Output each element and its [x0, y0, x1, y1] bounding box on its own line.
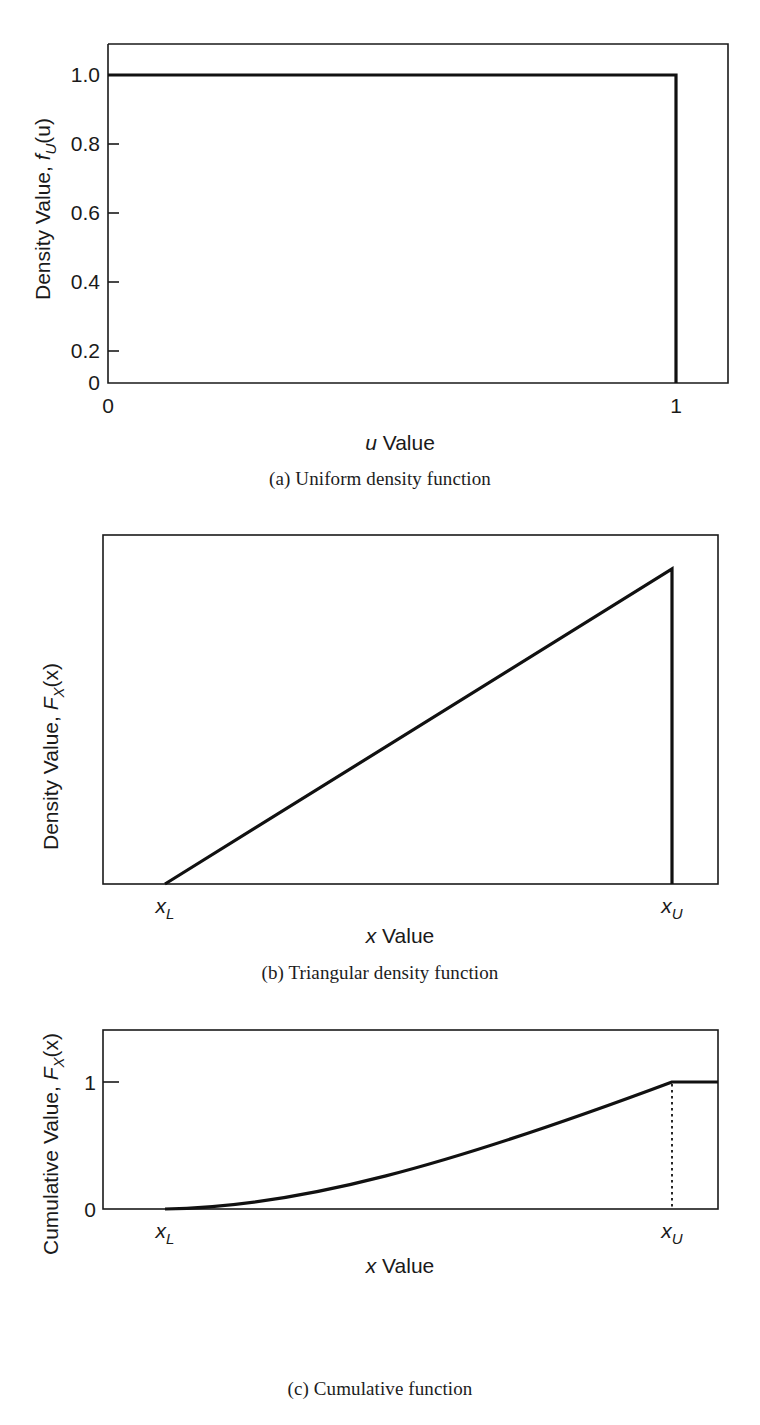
chart-panel-c: Cumulative Value, FX(x) 1 0 xL xU x Va	[0, 985, 760, 1340]
triangular-density-chart: Density Value, FX(x) xL xU x Value	[0, 505, 760, 945]
cumulative-curve	[165, 1082, 718, 1209]
plot-frame-c	[103, 1030, 718, 1209]
y-axis-title-c: Cumulative Value, FX(x)	[39, 1033, 67, 1255]
chart-panel-a: Density Value, fU(u) 1.0 0.8 0.6 0.4 0.2…	[0, 0, 760, 450]
x-axis-title-b-text: Value	[376, 924, 434, 945]
y-tick-label-a-5: 0.2	[71, 339, 100, 362]
x-tick-label-a-0: 0	[102, 394, 114, 417]
caption-a: (a) Uniform density function	[0, 468, 760, 490]
y-axis-title-b: Density Value, FX(x)	[39, 663, 67, 850]
x-tick-label-b-lower-sub: L	[166, 905, 174, 922]
uniform-density-chart: Density Value, fU(u) 1.0 0.8 0.6 0.4 0.2…	[0, 0, 760, 455]
y-axis-title-a-sub: U	[42, 143, 59, 154]
y-axis-title-a-arg: (u)	[31, 118, 54, 144]
y-tick-label-a-4: 0.4	[71, 270, 101, 293]
y-axis-title-b-arg: (x)	[39, 663, 62, 688]
plot-frame-b	[103, 535, 718, 884]
y-tick-label-a-1: 1.0	[71, 63, 100, 86]
x-tick-label-c-lower: xL	[155, 1219, 175, 1247]
y-tick-label-c-1: 1	[84, 1071, 96, 1094]
y-axis-title-b-prefix: Density Value,	[39, 710, 62, 850]
cumulative-function-chart: Cumulative Value, FX(x) 1 0 xL xU x Va	[0, 985, 760, 1340]
y-axis-title-a: Density Value, fU(u)	[31, 118, 59, 300]
x-tick-label-c-upper-sub: U	[672, 1230, 683, 1247]
y-tick-label-a-3: 0.6	[71, 201, 100, 224]
y-axis-title-c-arg: (x)	[39, 1033, 62, 1058]
chart-panel-b: Density Value, FX(x) xL xU x Value	[0, 505, 760, 945]
x-tick-label-b-lower: xL	[155, 894, 175, 922]
x-axis-title-c-text: Value	[376, 1254, 434, 1277]
uniform-density-curve	[108, 75, 676, 383]
x-tick-label-b-upper-sub: U	[672, 905, 683, 922]
caption-c: (c) Cumulative function	[0, 1378, 760, 1400]
y-axis-title-a-prefix: Density Value,	[31, 160, 54, 300]
x-tick-label-b-upper: xU	[660, 894, 683, 922]
x-axis-title-a: u Value	[365, 431, 435, 454]
x-axis-title-c: x Value	[365, 1254, 435, 1277]
y-tick-label-a-2: 0.8	[71, 132, 100, 155]
caption-b: (b) Triangular density function	[0, 962, 760, 984]
y-tick-label-c-0: 0	[84, 1198, 96, 1221]
y-tick-label-a-6: 0	[88, 371, 100, 394]
x-tick-label-c-lower-sub: L	[166, 1230, 174, 1247]
x-axis-title-a-var: u	[365, 431, 377, 454]
figure-page: Density Value, fU(u) 1.0 0.8 0.6 0.4 0.2…	[0, 0, 760, 1425]
triangular-density-curve	[165, 569, 672, 884]
x-tick-label-c-upper: xU	[660, 1219, 683, 1247]
x-axis-title-b: x Value	[365, 924, 435, 945]
plot-frame-a	[108, 44, 728, 383]
x-axis-title-a-text: Value	[377, 431, 435, 454]
x-tick-label-a-1: 1	[670, 394, 682, 417]
y-axis-title-c-prefix: Cumulative Value,	[39, 1080, 62, 1255]
